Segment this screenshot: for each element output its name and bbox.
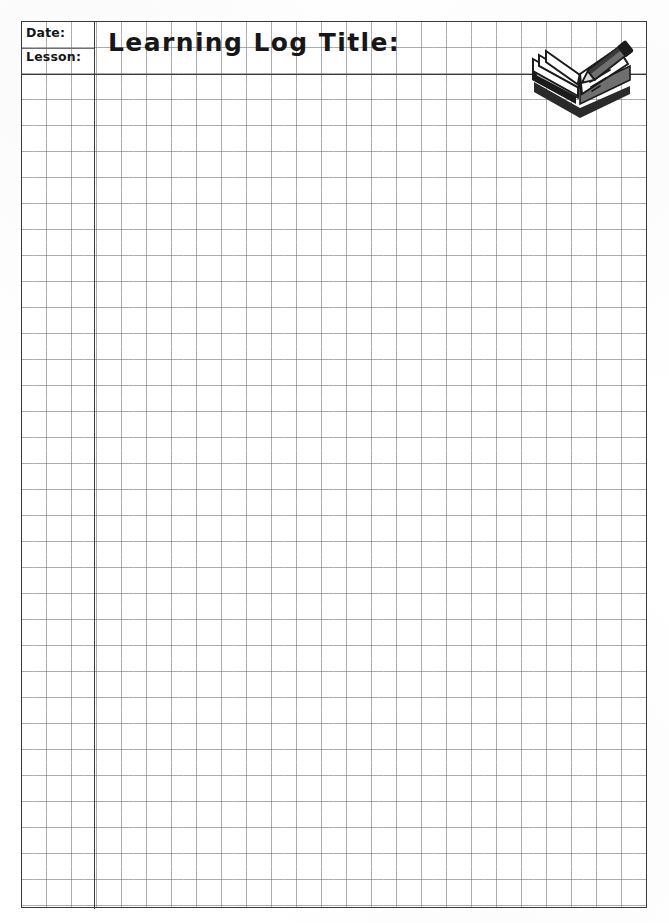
- date-label: Date:: [26, 25, 65, 40]
- learning-log-writing-area[interactable]: [22, 75, 646, 909]
- lesson-label: Lesson:: [26, 49, 81, 64]
- date-lesson-stub: Date: Lesson:: [22, 22, 94, 75]
- learning-log-title-label: Learning Log Title:: [108, 28, 400, 58]
- header-row: Date: Lesson: Learning Log Title:: [22, 22, 646, 75]
- worksheet-page: Date: Lesson: Learning Log Title:: [0, 0, 669, 923]
- learning-log-table: Date: Lesson: Learning Log Title:: [21, 21, 647, 908]
